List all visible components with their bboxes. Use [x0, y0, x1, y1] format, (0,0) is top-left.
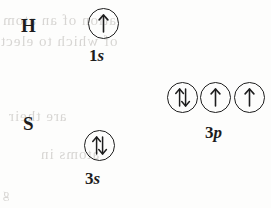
orbital-3p-2	[200, 82, 231, 113]
subshell-1s-orbital-letter: s	[98, 46, 105, 65]
orbital-3p-1	[167, 82, 198, 113]
showthrough-text-line-5: g	[2, 186, 10, 202]
element-symbol-hydrogen: H	[21, 16, 36, 35]
orbital-1s-1	[88, 8, 119, 39]
subshell-3p-principal-number: 3	[205, 123, 214, 142]
spin-down-arrow-icon	[182, 89, 190, 106]
orbital-diagram-page: ation of an atom of which to elect are t…	[0, 0, 271, 208]
spin-up-arrow-icon	[211, 89, 220, 106]
subshell-label-3p: 3p	[205, 124, 222, 141]
spin-up-arrow-icon	[245, 89, 254, 106]
spin-up-arrow-icon	[93, 137, 101, 154]
orbital-3p-3	[234, 82, 265, 113]
subshell-3s-orbital-letter: s	[94, 169, 101, 188]
element-symbol-sulfur: S	[23, 114, 34, 133]
subshell-label-1s: 1s	[89, 47, 104, 64]
spin-up-arrow-icon	[176, 89, 184, 106]
orbital-3s-1	[84, 130, 115, 161]
spin-down-arrow-icon	[99, 137, 107, 154]
subshell-3s-principal-number: 3	[85, 169, 94, 188]
subshell-1s-principal-number: 1	[89, 46, 98, 65]
subshell-3p-orbital-letter: p	[214, 123, 223, 142]
spin-up-arrow-icon	[99, 15, 108, 32]
subshell-label-3s: 3s	[85, 170, 100, 187]
showthrough-text-line-3: are their	[8, 108, 67, 125]
